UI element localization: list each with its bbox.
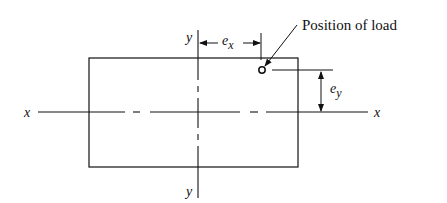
y-axis-label-top: y	[184, 30, 193, 45]
load-leader-arrow	[265, 25, 297, 66]
load-point	[259, 67, 265, 73]
ex-label: ex	[222, 33, 234, 52]
x-axis-label-left: x	[23, 105, 31, 120]
load-annotation: Position of load	[302, 17, 398, 33]
ey-dimension	[272, 70, 333, 111]
x-axis-label-right: x	[373, 105, 381, 120]
ey-label: ey	[330, 81, 342, 100]
y-axis-label-bottom: y	[184, 184, 193, 199]
eccentric-load-diagram: Position of load x x y y ex ey	[0, 0, 447, 203]
